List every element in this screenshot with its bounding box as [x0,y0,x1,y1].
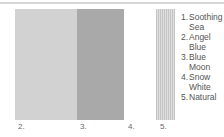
legend-number: 3. [181,52,189,72]
color-swatch-natural [156,9,175,120]
legend-item: 3. Blue Moon [181,52,224,72]
legend-number: 2. [181,32,189,52]
color-swatch-blue-moon [77,9,124,120]
color-legend: 1. Soothing Sea 2. Angel Blue 3. Blue Mo… [181,12,224,102]
legend-number: 4. [181,72,189,92]
legend-number: 5. [181,92,189,102]
swatch-label-4: 4. [128,122,135,131]
color-swatch-snow-white [124,9,156,120]
color-swatch-angel-blue [15,9,77,120]
legend-item: 4. Snow White [181,72,224,92]
legend-number: 1. [181,12,189,32]
swatch-label-2: 2. [18,122,25,131]
legend-name: Snow White [189,72,224,92]
legend-name: Blue Moon [189,52,224,72]
legend-name: Natural [189,92,224,102]
legend-item: 2. Angel Blue [181,32,224,52]
legend-name: Soothing Sea [189,12,224,32]
top-rule [0,2,224,4]
legend-item: 1. Soothing Sea [181,12,224,32]
swatch-label-5: 5. [160,122,167,131]
legend-item: 5. Natural [181,92,224,102]
legend-name: Angel Blue [189,32,224,52]
swatch-label-3: 3. [80,122,87,131]
